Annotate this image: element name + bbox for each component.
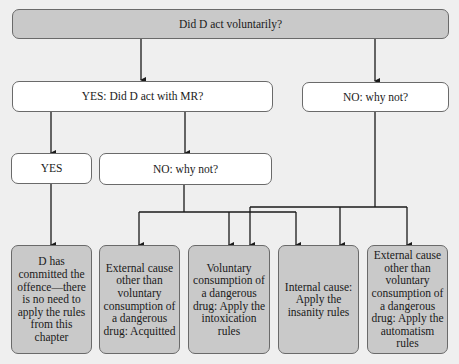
no-mr-label: NO: why not?	[153, 163, 218, 176]
outcome-label: Internal cause: Apply the insanity rules	[282, 281, 355, 319]
yes-mr-box: YES	[11, 153, 92, 184]
outcome-intoxication-rules: Voluntary consumption of a dangerous dru…	[188, 245, 270, 354]
outcome-committed-offence: D has committed the offence—there is no …	[11, 245, 92, 354]
outcome-acquitted: External cause other than voluntary cons…	[99, 245, 180, 354]
outcome-label: External cause other than voluntary cons…	[371, 249, 444, 350]
yes-mr-label: YES	[41, 162, 63, 175]
outcome-label: D has committed the offence—there is no …	[15, 255, 88, 343]
no-mr-box: NO: why not?	[99, 153, 272, 185]
outcome-insanity-rules: Internal cause: Apply the insanity rules	[278, 245, 359, 354]
outcome-automatism-rules: External cause other than voluntary cons…	[367, 245, 448, 354]
root-question-label: Did D act voluntarily?	[179, 18, 282, 31]
yes-mr-question-label: YES: Did D act with MR?	[82, 90, 204, 103]
outcome-label: Voluntary consumption of a dangerous dru…	[192, 262, 266, 338]
outcome-label: External cause other than voluntary cons…	[103, 262, 176, 338]
yes-mr-question-box: YES: Did D act with MR?	[12, 81, 273, 112]
root-question-box: Did D act voluntarily?	[12, 9, 449, 39]
no-voluntary-box: NO: why not?	[302, 82, 449, 112]
no-voluntary-label: NO: why not?	[343, 91, 408, 104]
